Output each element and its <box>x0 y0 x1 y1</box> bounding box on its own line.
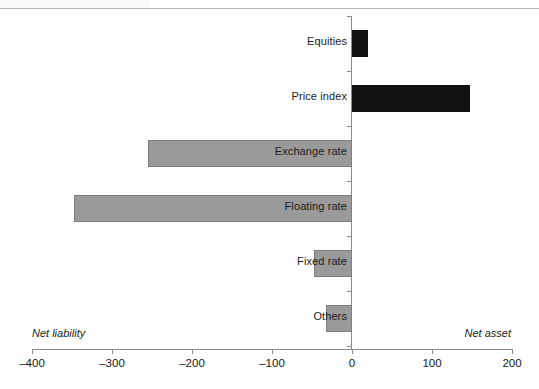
x-axis-tick <box>512 349 513 354</box>
x-axis-tick <box>192 349 193 354</box>
category-tick <box>347 71 352 72</box>
category-tick <box>347 181 352 182</box>
bar-row: Floating rate <box>0 181 539 236</box>
x-axis-tick-label: –100 <box>259 357 285 369</box>
category-label-price-index: Price index <box>291 90 347 102</box>
x-axis-tick-label: –400 <box>19 357 45 369</box>
x-axis-tick-label: 200 <box>502 357 521 369</box>
category-tick <box>347 126 352 127</box>
bar-row: Exchange rate <box>0 126 539 181</box>
x-axis-tick <box>432 349 433 354</box>
category-label-floating-rate: Floating rate <box>285 200 347 212</box>
category-tick <box>347 291 352 292</box>
category-label-exchange-rate: Exchange rate <box>275 145 347 157</box>
category-tick <box>347 16 352 17</box>
bar-equities <box>352 30 368 57</box>
x-axis-tick-label: –200 <box>179 357 205 369</box>
category-tick <box>347 236 352 237</box>
x-axis-tick <box>352 349 353 354</box>
bar-row: Fixed rate <box>0 236 539 291</box>
x-axis-tick <box>112 349 113 354</box>
x-axis-tick-label: –300 <box>99 357 125 369</box>
net-asset-annotation: Net asset <box>465 327 511 339</box>
category-label-equities: Equities <box>307 35 347 47</box>
category-label-others: Others <box>313 310 347 322</box>
category-tick <box>347 346 352 347</box>
net-liability-annotation: Net liability <box>32 327 85 339</box>
bar-row: Price index <box>0 71 539 126</box>
chart-figure: EquitiesPrice indexExchange rateFloating… <box>0 0 539 389</box>
x-axis-tick-label: 100 <box>422 357 441 369</box>
x-axis-tick <box>272 349 273 354</box>
category-label-fixed-rate: Fixed rate <box>297 255 347 267</box>
bar-row: Equities <box>0 16 539 71</box>
x-axis-tick <box>32 349 33 354</box>
x-axis-tick-label: 0 <box>349 357 355 369</box>
bar-price-index <box>352 85 470 112</box>
